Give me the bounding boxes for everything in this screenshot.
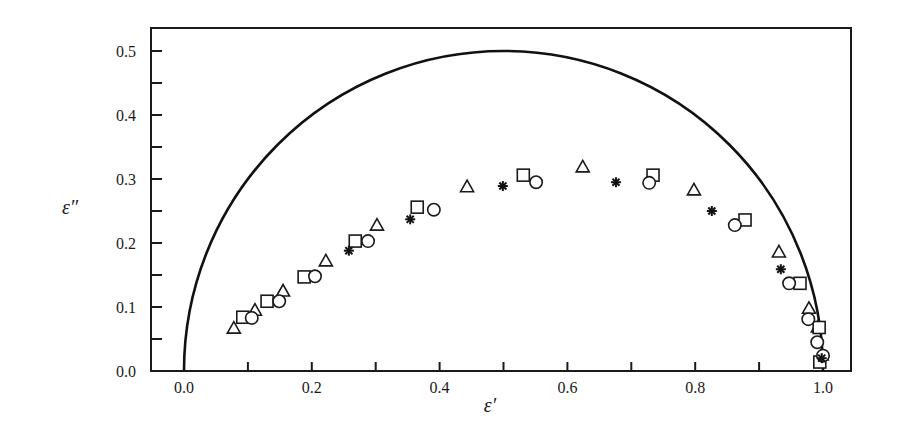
triangle-marker [370,219,383,231]
y-tick-label: 0.0 [116,363,136,380]
data-markers [227,160,829,368]
circle-marker [811,336,823,348]
impedance-plot: 0.00.20.40.60.81.0 0.00.10.20.30.40.5 ε′… [0,0,900,434]
square-marker [411,201,423,213]
circle-marker [428,204,440,216]
circle-marker [802,313,814,325]
x-axis-label: ε′ [484,394,497,416]
square-marker [517,169,529,181]
debye-semicircle-curve [184,51,823,371]
triangle-marker [461,180,474,192]
x-tick-label: 0.4 [430,379,450,396]
asterisk-marker [405,214,415,224]
x-axis: 0.00.20.40.60.81.0 [174,362,833,396]
asterisk-marker [344,246,354,256]
triangle-marker [319,254,332,266]
x-tick-label: 0.2 [302,379,322,396]
triangle-marker [277,285,290,297]
square-marker [349,235,361,247]
triangle-marker [687,183,700,195]
y-axis: 0.00.10.20.30.40.5 [116,43,162,380]
circle-marker [246,312,258,324]
y-tick-label: 0.2 [116,235,136,252]
triangle-marker [576,160,589,172]
circle-marker [309,270,321,282]
y-tick-label: 0.4 [116,107,136,124]
circle-marker [643,177,655,189]
triangle-marker [802,302,815,314]
x-tick-label: 0.6 [557,379,577,396]
circle-marker [783,277,795,289]
x-tick-label: 0.0 [174,379,194,396]
asterisk-marker [776,264,786,274]
asterisk-marker [707,206,717,216]
x-tick-label: 0.8 [685,379,705,396]
y-axis-label: ε″ [62,196,79,218]
circle-marker [362,235,374,247]
square-marker [261,295,273,307]
asterisk-marker [817,353,827,363]
y-tick-label: 0.1 [116,299,136,316]
circle-marker [530,176,542,188]
circle-marker [729,219,741,231]
y-tick-label: 0.5 [116,43,136,60]
circle-marker [273,295,285,307]
triangle-marker [772,245,785,256]
asterisk-marker [498,181,508,191]
y-tick-label: 0.3 [116,171,136,188]
x-tick-label: 1.0 [813,379,833,396]
asterisk-marker [611,177,621,187]
square-marker [813,321,825,333]
